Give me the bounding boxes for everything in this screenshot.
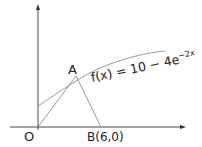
origin-label: O xyxy=(24,129,34,144)
function-label: f(x) = 10 − 4e−2x xyxy=(90,48,198,85)
y-axis-arrow-icon xyxy=(36,4,40,10)
segment-oa xyxy=(38,76,76,127)
point-b-label: B(6,0) xyxy=(87,130,124,144)
diagram: A f(x) = 10 − 4e−2x O B(6,0) xyxy=(0,0,202,147)
x-axis-arrow-icon xyxy=(180,125,186,129)
point-a-label: A xyxy=(68,62,77,77)
graph: A f(x) = 10 − 4e−2x O B(6,0) xyxy=(0,0,202,147)
